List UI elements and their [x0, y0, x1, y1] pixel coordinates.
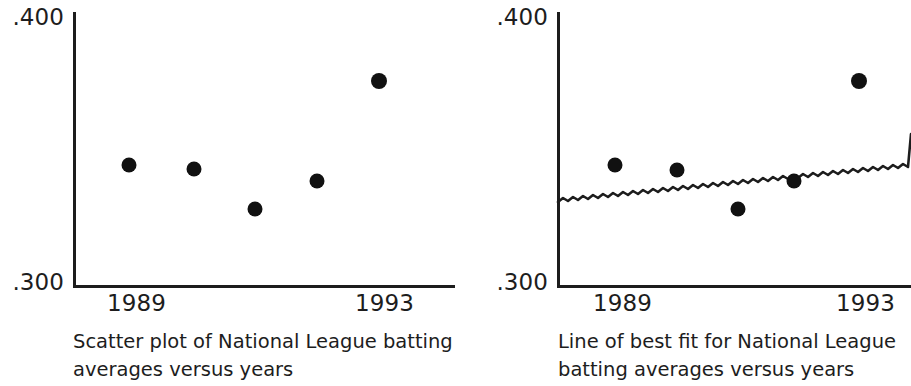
panel-scatter-plot: .400 .300 1989 1993 Scatter plot of Nati… [0, 0, 455, 386]
data-point [122, 158, 137, 173]
panel-caption: Scatter plot of National League batting … [73, 328, 463, 384]
x-axis-tick-label-1993: 1993 [355, 292, 414, 315]
y-axis-top-tick-label: .400 [4, 6, 64, 29]
data-point [187, 162, 202, 177]
x-axis-tick-label-1989: 1989 [107, 292, 166, 315]
scatter-plot-axes-and-points [0, 0, 455, 320]
y-axis-top-tick-label: .400 [488, 6, 548, 29]
figure-root: .400 .300 1989 1993 Scatter plot of Nati… [0, 0, 911, 386]
data-point [670, 163, 685, 178]
panel-caption: Line of best fit for National League bat… [558, 328, 911, 384]
data-point [731, 202, 746, 217]
y-axis-bottom-tick-label: .300 [4, 271, 64, 294]
x-axis-tick-label-1989: 1989 [593, 292, 652, 315]
data-point [371, 73, 387, 89]
data-point [248, 202, 263, 217]
x-axis-tick-label-1993: 1993 [836, 292, 895, 315]
data-point [608, 158, 623, 173]
data-point [310, 174, 325, 189]
data-point [851, 73, 867, 89]
panel-line-of-best-fit: .400 .300 1989 1993 Line of best fit for… [455, 0, 910, 386]
y-axis-bottom-tick-label: .300 [488, 271, 548, 294]
data-point [787, 174, 802, 189]
